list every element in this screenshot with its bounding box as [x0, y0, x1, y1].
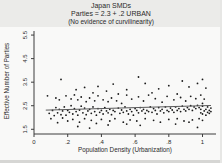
data-point	[57, 112, 59, 114]
data-point	[92, 106, 94, 108]
data-point	[202, 103, 204, 105]
data-point	[116, 100, 118, 102]
data-point	[121, 109, 123, 111]
data-point	[119, 112, 121, 114]
x-tick-label: .8	[166, 139, 172, 145]
scan-edge-bottom	[0, 160, 222, 163]
data-point	[153, 119, 155, 121]
data-point	[158, 88, 160, 90]
data-point	[84, 87, 86, 89]
data-point	[203, 110, 205, 112]
data-point	[70, 105, 72, 107]
data-point	[138, 96, 140, 98]
data-point	[67, 120, 69, 122]
data-point	[160, 121, 162, 123]
data-point	[65, 95, 67, 97]
x-tick-label: .4	[99, 139, 105, 145]
data-point	[205, 114, 207, 116]
data-point	[126, 123, 128, 125]
data-point	[210, 107, 212, 109]
data-point	[175, 123, 177, 125]
data-point	[198, 107, 200, 109]
data-point	[207, 111, 209, 113]
data-point	[180, 97, 182, 99]
data-point	[138, 76, 140, 78]
data-point	[181, 80, 183, 82]
x-tick-label: 1	[201, 139, 205, 145]
data-point	[160, 110, 162, 112]
data-point	[183, 108, 185, 110]
data-point	[96, 114, 98, 116]
data-point	[146, 110, 148, 112]
data-point	[90, 112, 92, 114]
data-point	[205, 87, 207, 89]
data-point	[80, 105, 82, 107]
data-point	[192, 110, 194, 112]
data-point	[94, 100, 96, 102]
x-tick-label: .2	[65, 139, 71, 145]
data-point	[111, 97, 113, 99]
data-point	[109, 120, 111, 122]
data-point	[126, 89, 128, 91]
data-point	[82, 112, 84, 114]
data-point	[178, 108, 180, 110]
data-point	[65, 114, 67, 116]
data-point	[136, 110, 138, 112]
data-point	[185, 100, 187, 102]
data-point	[197, 127, 199, 129]
data-point	[131, 111, 133, 113]
data-point	[126, 94, 128, 96]
x-axis-title: Population Density (Urbanization)	[78, 146, 172, 154]
data-point	[114, 118, 116, 120]
data-point	[58, 99, 60, 101]
data-point	[208, 112, 210, 114]
data-point	[79, 121, 81, 123]
y-tick-label: 2.5	[22, 101, 28, 110]
data-point	[112, 83, 114, 85]
data-point	[161, 108, 163, 110]
data-point	[77, 126, 79, 128]
x-tick-label: 0	[32, 139, 36, 145]
data-point	[55, 107, 57, 109]
data-point	[101, 110, 103, 112]
data-point	[168, 111, 170, 113]
data-point	[136, 120, 138, 122]
y-axis-title: Effective Number of Parties	[3, 43, 10, 120]
data-point	[200, 108, 202, 110]
y-tick-label: 1.5	[22, 124, 28, 133]
data-point	[57, 122, 59, 124]
x-tick-label: .6	[133, 139, 139, 145]
data-point	[202, 79, 204, 81]
data-point	[144, 112, 146, 114]
data-point	[107, 112, 109, 114]
data-point	[171, 109, 173, 111]
data-point	[188, 108, 190, 110]
data-point	[96, 123, 98, 125]
y-tick-label: 3.5	[22, 77, 28, 86]
data-point	[176, 93, 178, 95]
data-point	[161, 101, 163, 103]
data-point	[198, 118, 200, 120]
data-point	[69, 111, 71, 113]
data-point	[183, 120, 185, 122]
data-point	[107, 101, 109, 103]
data-point	[87, 110, 89, 112]
data-point	[106, 110, 108, 112]
data-point	[195, 98, 197, 100]
data-point	[203, 98, 205, 100]
y-tick-label: 4.5	[22, 54, 28, 63]
data-point	[63, 106, 65, 108]
data-point	[151, 92, 153, 94]
data-point	[126, 110, 128, 112]
data-point	[99, 111, 101, 113]
data-point	[70, 98, 72, 100]
scan-edge-right	[220, 0, 222, 163]
data-point	[101, 119, 103, 121]
scatter-plot: 1.52.53.54.55.50.2.4.6.81 Effective Numb…	[0, 0, 222, 163]
data-point	[176, 110, 178, 112]
data-point	[176, 118, 178, 120]
data-point	[97, 86, 99, 88]
data-point	[153, 108, 155, 110]
data-point	[74, 94, 76, 96]
data-point	[107, 124, 109, 126]
